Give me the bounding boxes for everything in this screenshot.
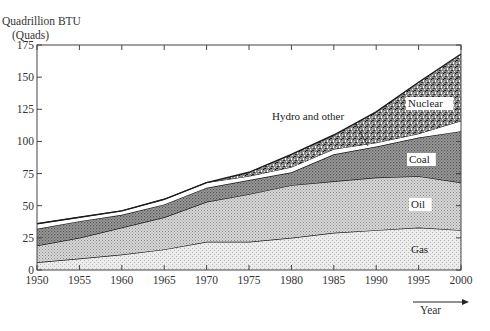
x-tick-label: 2000 [450, 274, 473, 286]
stacked-areas [37, 54, 461, 270]
y-tick-label: 75 [23, 168, 35, 180]
x-axis-title: Year [413, 299, 469, 316]
x-tick-label: 1965 [153, 274, 176, 286]
x-tick-label: 1980 [280, 274, 303, 286]
y-axis-label-line2: (Quads) [12, 29, 49, 42]
y-axis-label-line1: Quadrillion BTU [2, 15, 82, 27]
coal-label: Coal [409, 153, 430, 165]
y-tick-label: 125 [17, 103, 35, 115]
energy-chart: 0255075100125150175195019551960196519701… [0, 0, 490, 331]
x-tick-label: 1990 [365, 274, 388, 286]
x-tick-label: 1995 [407, 274, 430, 286]
y-tick-label: 100 [17, 135, 35, 147]
oil-label: Oil [411, 198, 425, 210]
x-tick-label: 1950 [26, 274, 49, 286]
y-tick-label: 150 [17, 71, 35, 83]
y-tick-label: 25 [23, 232, 35, 244]
x-tick-label: 1985 [322, 274, 345, 286]
nuclear-label: Nuclear [408, 97, 443, 109]
arrow-head-icon [462, 299, 469, 305]
gas-label: Gas [411, 243, 428, 255]
x-tick-label: 1970 [195, 274, 218, 286]
x-tick-label: 1975 [238, 274, 261, 286]
hydro-label: Hydro and other [272, 110, 344, 122]
x-tick-label: 1960 [110, 274, 133, 286]
x-axis-label: Year [420, 304, 441, 316]
y-tick-label: 50 [23, 200, 35, 212]
x-tick-label: 1955 [68, 274, 91, 286]
